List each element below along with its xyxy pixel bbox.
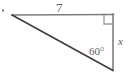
geometry-figure: 7 x 60°: [0, 0, 132, 79]
side-label-top: 7: [56, 1, 63, 14]
triangle-hypotenuse: [12, 15, 113, 71]
right-angle-marker-icon: [104, 15, 113, 24]
side-label-right: x: [118, 36, 123, 47]
angle-label-60: 60°: [89, 46, 104, 57]
triangle-drawing: [0, 0, 132, 79]
